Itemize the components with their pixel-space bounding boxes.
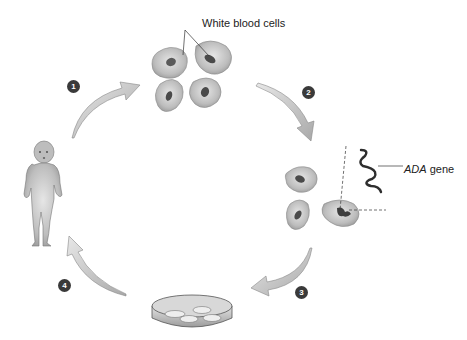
petri-dish-icon bbox=[152, 295, 232, 327]
white-blood-cells-top bbox=[152, 30, 232, 112]
step-badge-2: 2 bbox=[302, 86, 315, 99]
ada-gene-suffix: gene bbox=[427, 163, 455, 175]
white-blood-cells-label: White blood cells bbox=[202, 17, 285, 29]
step-badge-1: 1 bbox=[67, 80, 80, 93]
ada-gene-name: ADA bbox=[404, 163, 427, 175]
step-badge-4: 4 bbox=[58, 279, 71, 292]
arrow-step-1 bbox=[72, 82, 140, 138]
ada-gene-label: ADA gene bbox=[404, 163, 454, 175]
step-badge-3: 3 bbox=[295, 286, 308, 299]
arrow-step-4 bbox=[67, 236, 126, 296]
ada-gene-icon bbox=[360, 150, 403, 192]
gene-therapy-cycle-diagram: White blood cells ADA gene 1 2 3 4 bbox=[0, 0, 467, 340]
white-blood-cells-right bbox=[285, 146, 386, 230]
infant-patient-icon bbox=[24, 141, 62, 246]
